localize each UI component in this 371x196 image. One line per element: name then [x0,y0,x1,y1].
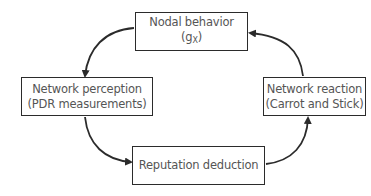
node-label: Network reaction [267,82,362,97]
node-sublabel: (Carrot and Stick) [266,97,364,112]
node-sublabel: (gX) [181,30,202,48]
node-nodal-behavior: Nodal behavior (gX) [135,12,248,51]
arrow-nodal-to-perception [85,28,134,76]
node-reputation-deduction: Reputation deduction [132,146,265,185]
node-label: Network perception [32,82,142,97]
node-network-reaction: Network reaction (Carrot and Stick) [263,77,366,116]
node-label: Reputation deduction [139,158,259,173]
node-sublabel: (PDR measurements) [27,97,146,112]
node-label: Nodal behavior [149,15,234,30]
sublabel-main: (g [181,30,192,44]
sublabel-end: ) [198,30,202,44]
node-network-perception: Network perception (PDR measurements) [21,77,153,116]
arrow-reputation-to-reaction [266,118,308,164]
arrow-perception-to-reputation [85,117,131,162]
reputation-cycle-diagram: Nodal behavior (gX) Network perception (… [0,0,371,196]
arrow-reaction-to-nodal [250,33,303,76]
